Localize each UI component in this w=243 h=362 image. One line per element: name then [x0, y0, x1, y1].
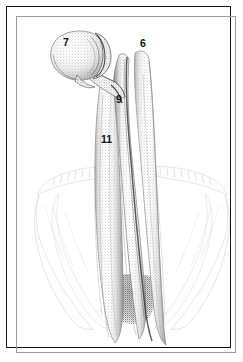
- label-6: 6: [140, 38, 146, 49]
- label-7: 7: [63, 37, 69, 48]
- label-9: 9: [116, 94, 122, 105]
- anatomical-illustration: [15, 15, 236, 353]
- plate-frame: 7 6 9 11: [6, 6, 231, 348]
- label-11: 11: [101, 134, 112, 145]
- figure-root: 7 6 9 11: [0, 0, 243, 362]
